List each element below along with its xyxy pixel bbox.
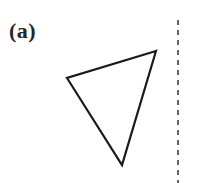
figure-panel: (a)	[0, 0, 219, 183]
panel-label: (a)	[9, 18, 36, 44]
